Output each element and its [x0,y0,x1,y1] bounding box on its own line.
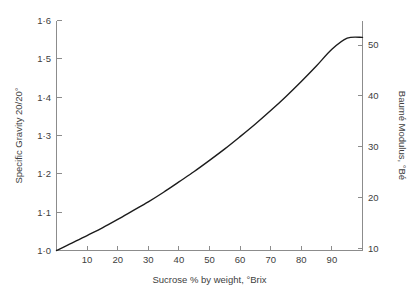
chart-figure: 1·0 1·1 1·2 1·3 1·4 1·5 1·6 10 20 30 40 [0,0,413,298]
chart-canvas: 1·0 1·1 1·2 1·3 1·4 1·5 1·6 10 20 30 40 [0,0,413,298]
bottom-tick-label-30: 30 [143,254,154,265]
bottom-tick-label-70: 70 [265,254,276,265]
left-axis-tick-labels: 1·0 1·1 1·2 1·3 1·4 1·5 1·6 [37,15,51,256]
left-tick-label-1-4: 1·4 [37,92,51,103]
right-tick-label-10: 10 [368,243,379,254]
bottom-tick-label-60: 60 [235,254,246,265]
data-curve-specific-gravity [57,37,363,250]
right-tick-label-30: 30 [368,141,379,152]
axis-spines [57,21,363,251]
x-axis-title: Sucrose % by weight, °Brix [152,274,266,285]
bottom-tick-label-90: 90 [327,254,338,265]
left-tick-label-1-3: 1·3 [37,130,51,141]
right-tick-label-20: 20 [368,192,379,203]
bottom-tick-label-50: 50 [204,254,215,265]
bottom-tick-label-20: 20 [112,254,123,265]
bottom-axis-tick-labels: 10 20 30 40 50 60 70 80 90 [82,254,337,265]
bottom-axis-ticks [87,246,332,251]
y2-axis-title: Baumé Modulus, °Bé [397,91,408,180]
left-tick-label-1-6: 1·6 [37,15,51,26]
right-tick-label-40: 40 [368,90,379,101]
left-tick-label-1-1: 1·1 [37,207,51,218]
left-axis-ticks [57,21,62,251]
right-tick-label-50: 50 [368,39,379,50]
y-axis-title: Specific Gravity 20/20° [13,87,24,183]
right-axis-tick-labels: 10 20 30 40 50 [368,39,379,253]
left-tick-label-1-5: 1·5 [37,53,51,64]
bottom-tick-label-10: 10 [82,254,93,265]
bottom-tick-label-40: 40 [174,254,185,265]
left-tick-label-1-0: 1·0 [37,245,51,256]
bottom-tick-label-80: 80 [296,254,307,265]
right-axis-ticks [358,45,363,248]
left-tick-label-1-2: 1·2 [37,168,51,179]
